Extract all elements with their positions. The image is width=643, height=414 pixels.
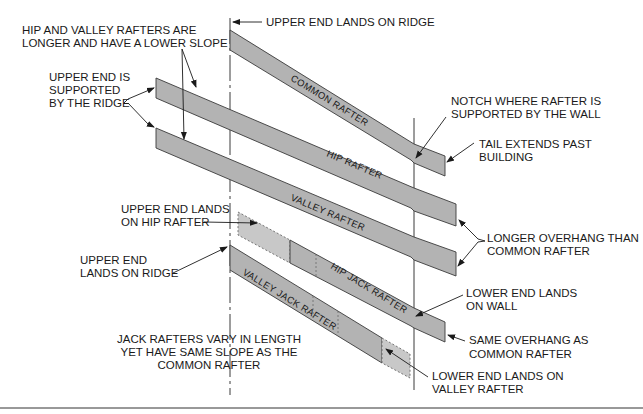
- svg-text:LOWER END LANDS ON: LOWER END LANDS ON: [432, 370, 564, 382]
- svg-text:LANDS ON RIDGE: LANDS ON RIDGE: [80, 267, 179, 279]
- svg-text:UPPER END IS: UPPER END IS: [49, 71, 130, 83]
- svg-text:ON WALL: ON WALL: [466, 300, 518, 312]
- svg-text:UPPER END: UPPER END: [80, 254, 147, 266]
- svg-text:SUPPORTED: SUPPORTED: [49, 84, 120, 96]
- svg-text:YET HAVE SAME SLOPE AS THE: YET HAVE SAME SLOPE AS THE: [120, 346, 297, 358]
- svg-text:HIP AND VALLEY RAFTERS ARE: HIP AND VALLEY RAFTERS ARE: [22, 24, 197, 36]
- svg-text:ON HIP RAFTER: ON HIP RAFTER: [121, 216, 210, 228]
- callout-lower-end-valley: LOWER END LANDS ON VALLEY RAFTER: [432, 370, 564, 395]
- svg-text:LOWER END LANDS: LOWER END LANDS: [466, 287, 578, 299]
- callout-upper-end-supported: UPPER END IS SUPPORTED BY THE RIDGE: [49, 71, 130, 109]
- callout-jack-vary: JACK RAFTERS VARY IN LENGTH YET HAVE SAM…: [117, 333, 301, 371]
- callout-tail: TAIL EXTENDS PAST BUILDING: [479, 138, 592, 163]
- callout-hip-valley-longer: HIP AND VALLEY RAFTERS ARE LONGER AND HA…: [22, 24, 228, 49]
- callout-upper-end-ridge-2: UPPER END LANDS ON RIDGE: [80, 254, 179, 279]
- svg-text:UPPER END LANDS: UPPER END LANDS: [121, 203, 230, 215]
- callout-same-overhang: SAME OVERHANG AS COMMON RAFTER: [469, 334, 589, 360]
- svg-text:JACK RAFTERS VARY IN LENGTH: JACK RAFTERS VARY IN LENGTH: [117, 333, 301, 345]
- svg-text:VALLEY RAFTER: VALLEY RAFTER: [432, 383, 524, 395]
- svg-text:SAME OVERHANG AS: SAME OVERHANG AS: [469, 334, 589, 346]
- svg-text:COMMON RAFTER: COMMON RAFTER: [487, 245, 590, 257]
- rafter-diagram: COMMON RAFTER HIP RAFTER VALLEY RAFTER H…: [0, 0, 643, 414]
- svg-text:BY THE RIDGE: BY THE RIDGE: [49, 97, 130, 109]
- callout-upper-end-ridge: UPPER END LANDS ON RIDGE: [266, 16, 435, 28]
- common-rafter-label: COMMON RAFTER: [289, 72, 371, 128]
- svg-text:NOTCH WHERE RAFTER IS: NOTCH WHERE RAFTER IS: [451, 95, 601, 107]
- callout-lower-end-wall: LOWER END LANDS ON WALL: [466, 287, 578, 312]
- svg-text:LONGER AND HAVE A LOWER SLOPE: LONGER AND HAVE A LOWER SLOPE: [22, 37, 228, 49]
- svg-text:BUILDING: BUILDING: [479, 151, 533, 163]
- svg-text:COMMON RAFTER: COMMON RAFTER: [158, 359, 261, 371]
- callout-upper-end-hip: UPPER END LANDS ON HIP RAFTER: [121, 203, 230, 228]
- svg-text:LONGER OVERHANG THAN: LONGER OVERHANG THAN: [487, 232, 639, 244]
- svg-text:TAIL EXTENDS PAST: TAIL EXTENDS PAST: [479, 138, 592, 150]
- callout-notch: NOTCH WHERE RAFTER IS SUPPORTED BY THE W…: [451, 95, 601, 120]
- svg-text:SUPPORTED BY THE WALL: SUPPORTED BY THE WALL: [451, 108, 601, 120]
- callout-longer-overhang: LONGER OVERHANG THAN COMMON RAFTER: [487, 232, 639, 257]
- svg-text:COMMON RAFTER: COMMON RAFTER: [469, 348, 572, 360]
